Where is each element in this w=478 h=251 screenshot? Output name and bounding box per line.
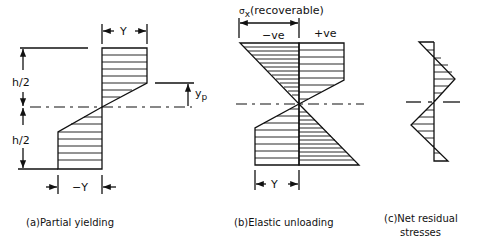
panel-a-y-label: Y	[119, 25, 127, 38]
panel-b-bottom-y-label: Y	[270, 178, 278, 191]
panel-b-caption: (b)Elastic unloading	[234, 217, 333, 228]
panel-a-yp-label: yp	[195, 87, 208, 102]
panel-a-neg-y-label: −Y	[72, 181, 88, 194]
panel-a-upper-stress-block	[102, 48, 147, 107]
panel-a-h2-upper-label: h/2	[12, 76, 30, 89]
panel-b-negative-label: −ve	[262, 29, 285, 42]
panel-b-elastic-unloading: σx(recoverable) −ve +ve	[234, 4, 364, 228]
stress-distribution-figure: h/2 h/2 Y −Y yp (a)Partial yielding σx(r…	[0, 0, 478, 251]
panel-a-upper-hatching	[102, 55, 147, 97]
panel-a-partial-yielding: h/2 h/2 Y −Y yp (a)Partial yielding	[12, 24, 208, 228]
panel-c-net-residual-stresses: (c)Net residual stresses	[384, 42, 460, 238]
panel-b-upper-negative-triangle	[240, 43, 299, 104]
panel-a-h2-lower-label: h/2	[12, 134, 30, 147]
panel-a-lower-hatching	[58, 117, 102, 160]
panel-b-upper-left-hatching	[244, 47, 299, 95]
panel-b-upper-positive-block	[299, 43, 344, 104]
panel-a-caption: (a)Partial yielding	[26, 217, 114, 228]
panel-b-lower-left-hatching	[255, 109, 299, 158]
panel-c-caption-line2: stresses	[400, 227, 441, 238]
panel-b-positive-label: +ve	[314, 27, 337, 40]
panel-c-caption-line1: (c)Net residual	[384, 213, 458, 224]
panel-b-lower-right-hatching	[299, 112, 354, 160]
panel-b-title: σx(recoverable)	[239, 4, 324, 19]
panel-b-lower-negative-block	[255, 104, 299, 165]
